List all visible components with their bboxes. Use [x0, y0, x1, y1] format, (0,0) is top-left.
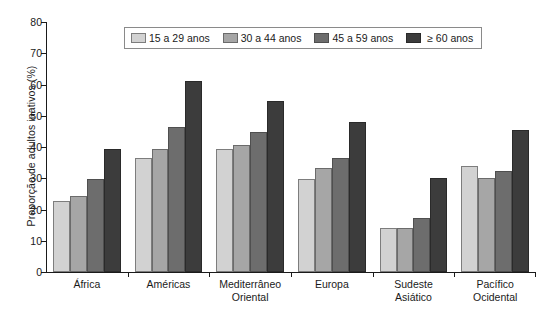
bar [250, 132, 267, 272]
bar [380, 228, 397, 272]
legend-item-label: 15 a 29 anos [149, 32, 210, 44]
bar [233, 145, 250, 272]
chart-legend: 15 a 29 anos30 a 44 anos45 a 59 anos≥ 60… [124, 27, 482, 49]
bar [152, 149, 169, 272]
bar [53, 201, 70, 272]
x-axis-tick [291, 272, 292, 277]
bar [104, 149, 121, 272]
bar-group [128, 22, 210, 272]
legend-swatch-30-44 [223, 33, 238, 43]
legend-swatch-60-plus [406, 33, 421, 43]
y-axis-tick-label: 20 [30, 203, 42, 217]
bar [349, 122, 366, 272]
bar [478, 178, 495, 272]
bar [168, 127, 185, 272]
y-axis-tick-label: 40 [30, 140, 42, 154]
bar-group [454, 22, 536, 272]
y-axis-tick-label: 70 [30, 46, 42, 60]
x-axis-category-label: SudesteAsiático [373, 278, 455, 304]
x-axis-tick [128, 272, 129, 277]
bar-group [373, 22, 455, 272]
legend-swatch-45-59 [314, 33, 329, 43]
x-axis-tick [209, 272, 210, 277]
legend-swatch-15-29 [131, 33, 146, 43]
bar [397, 228, 414, 272]
x-axis-tick [535, 272, 536, 277]
y-axis-tick-label: 50 [30, 109, 42, 123]
bar [461, 166, 478, 272]
bar [315, 168, 332, 272]
bar [216, 149, 233, 272]
legend-item[interactable]: ≥ 60 anos [406, 32, 473, 44]
x-axis-tick [373, 272, 374, 277]
plot-area: 01020304050607080 [46, 22, 536, 272]
bar [332, 158, 349, 272]
x-axis-category-label: MediterrâneoOriental [209, 278, 291, 304]
x-axis-category-label: Américas [128, 278, 210, 291]
bar-group [291, 22, 373, 272]
bar [87, 179, 104, 272]
legend-item[interactable]: 45 a 59 anos [314, 32, 393, 44]
legend-item[interactable]: 15 a 29 anos [131, 32, 210, 44]
y-axis-tick-label: 10 [30, 234, 42, 248]
legend-item-label: 45 a 59 anos [332, 32, 393, 44]
y-axis-tick-label: 60 [30, 78, 42, 92]
bar [267, 101, 284, 272]
bar [185, 81, 202, 272]
y-axis-tick-label: 80 [30, 15, 42, 29]
x-axis-category-label: PacíficoOcidental [454, 278, 536, 304]
bar-group [209, 22, 291, 272]
bar [495, 171, 512, 272]
bar [413, 218, 430, 272]
bar-group [46, 22, 128, 272]
bar-chart: Proporção de adultos inativos (%) 010203… [0, 0, 544, 313]
legend-item[interactable]: 30 a 44 anos [223, 32, 302, 44]
x-axis-tick [454, 272, 455, 277]
bar [430, 178, 447, 272]
bar [512, 130, 529, 272]
legend-item-label: ≥ 60 anos [427, 32, 473, 44]
bar [70, 196, 87, 272]
legend-item-label: 30 a 44 anos [241, 32, 302, 44]
x-axis-category-label: África [46, 278, 128, 291]
bar [298, 179, 315, 272]
x-axis-category-label: Europa [291, 278, 373, 291]
y-axis-tick-label: 30 [30, 171, 42, 185]
bar [135, 158, 152, 272]
y-axis-tick-label: 0 [36, 265, 42, 279]
